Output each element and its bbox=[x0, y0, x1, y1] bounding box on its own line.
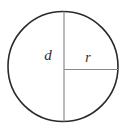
diameter-label: d bbox=[44, 47, 52, 63]
circle-diagram-canvas: d r bbox=[0, 0, 131, 131]
diagram-background bbox=[0, 0, 131, 131]
circle-diagram-container: d r bbox=[0, 0, 131, 131]
radius-label: r bbox=[85, 50, 91, 65]
